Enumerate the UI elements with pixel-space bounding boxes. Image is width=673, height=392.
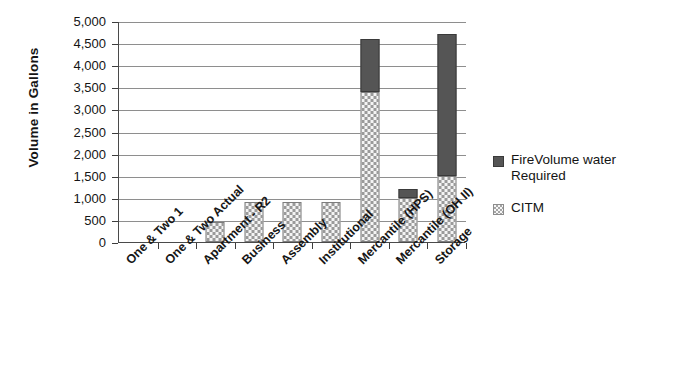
legend-label-citm: CITM [511, 200, 544, 216]
legend-label-firevolume: FireVolume water Required [511, 152, 616, 184]
legend-item-firevolume: FireVolume water Required [493, 152, 668, 184]
bar-chart: Volume in Gallons 5,0004,5004,0003,5003,… [0, 0, 673, 392]
legend-item-citm: CITM [493, 200, 668, 216]
dark-solid-swatch-icon [493, 156, 504, 167]
legend-label-firevolume-line2: Required [511, 168, 566, 183]
light-checker-swatch-icon [493, 204, 504, 215]
legend-label-firevolume-line1: FireVolume water [511, 152, 616, 167]
chart-legend: FireVolume water Required CITM [493, 152, 668, 232]
x-axis-label: Apartment - R2 [200, 194, 273, 267]
